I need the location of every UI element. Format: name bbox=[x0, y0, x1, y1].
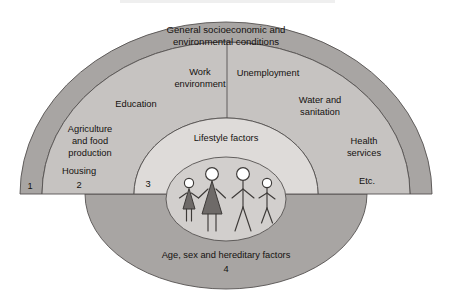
work-environment-label-line1: Work bbox=[189, 67, 211, 77]
etc-label: Etc. bbox=[359, 176, 375, 186]
agriculture-label-line3: production bbox=[68, 148, 111, 158]
work-environment-label-line2: environment bbox=[174, 79, 226, 89]
health-services-label-line1: Health bbox=[351, 136, 378, 146]
layer-3-number: 3 bbox=[145, 179, 150, 189]
layer-1-number: 1 bbox=[27, 181, 32, 191]
dahlgren-whitehead-rainbow-svg: General socioeconomic and environmental … bbox=[0, 0, 452, 292]
top-edge-artifact bbox=[120, 0, 335, 3]
outer-band-title-line1: General socioeconomic and bbox=[167, 24, 286, 35]
hereditary-factors-label: Age, sex and hereditary factors bbox=[162, 250, 291, 260]
agriculture-label-line1: Agriculture bbox=[68, 124, 112, 134]
outer-band-title-line2: environmental conditions bbox=[173, 36, 279, 47]
layer-2-number: 2 bbox=[76, 180, 81, 190]
housing-label: Housing bbox=[62, 166, 96, 176]
lifestyle-factors-label: Lifestyle factors bbox=[194, 133, 259, 143]
water-sanitation-label-line2: sanitation bbox=[300, 107, 340, 117]
agriculture-label-line2: and food bbox=[72, 136, 108, 146]
unemployment-label: Unemployment bbox=[237, 68, 300, 78]
water-sanitation-label-line1: Water and bbox=[299, 95, 342, 105]
health-services-label-line2: services bbox=[347, 148, 381, 158]
inner-oval-shape bbox=[166, 157, 286, 241]
rainbow-model-diagram: General socioeconomic and environmental … bbox=[0, 0, 452, 292]
layer-4-number: 4 bbox=[223, 264, 228, 274]
education-label: Education bbox=[115, 99, 156, 109]
inner-oval-individual bbox=[166, 157, 286, 241]
